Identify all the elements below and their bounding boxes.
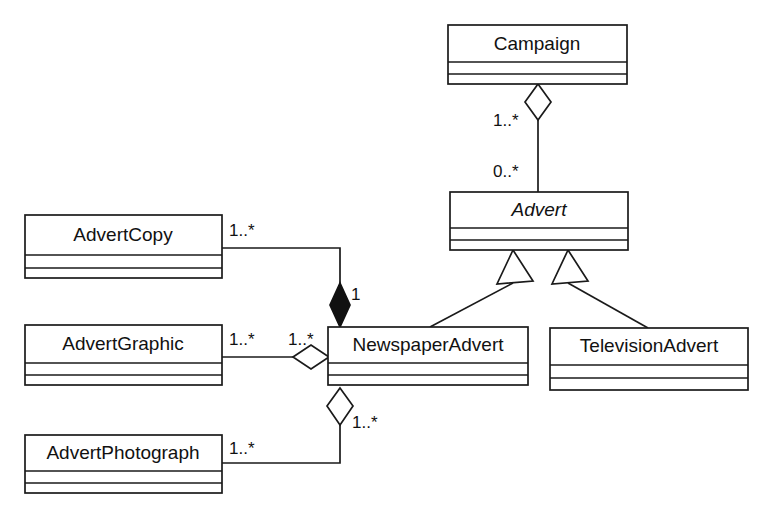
composition-diamond-newspaper-copy <box>330 283 350 327</box>
multiplicity-newspaper-copy-end: 1 <box>351 285 360 304</box>
multiplicity-campaign-end: 1..* <box>493 111 519 130</box>
multiplicity-advert-photograph-end: 1..* <box>229 439 255 458</box>
class-name-advert-copy: AdvertCopy <box>73 224 173 245</box>
uml-class-diagram: Campaign Advert NewspaperAdvert Televisi… <box>0 0 764 518</box>
multiplicity-advert-graphic-end: 1..* <box>229 330 255 349</box>
connector-television-generalization <box>568 283 648 328</box>
class-box-television-advert[interactable]: TelevisionAdvert <box>550 328 748 390</box>
class-box-advert-copy[interactable]: AdvertCopy <box>25 215 222 278</box>
class-name-campaign: Campaign <box>494 33 581 54</box>
class-name-advert: Advert <box>511 199 568 220</box>
diagram-canvas-svg: Campaign Advert NewspaperAdvert Televisi… <box>0 0 764 518</box>
aggregation-diamond-campaign <box>525 84 551 120</box>
class-name-newspaper-advert: NewspaperAdvert <box>352 334 504 355</box>
class-name-television-advert: TelevisionAdvert <box>580 335 719 356</box>
class-box-campaign[interactable]: Campaign <box>448 25 627 84</box>
class-box-advert-photograph[interactable]: AdvertPhotograph <box>25 435 222 493</box>
class-name-advert-photograph: AdvertPhotograph <box>46 442 199 463</box>
multiplicity-newspaper-photograph-end: 1..* <box>352 413 378 432</box>
class-box-advert[interactable]: Advert <box>450 192 628 250</box>
connector-advertcopy-newspaper <box>222 248 340 283</box>
generalization-triangle-newspaper <box>497 250 533 284</box>
connector-newspaper-generalization <box>430 283 513 327</box>
class-name-advert-graphic: AdvertGraphic <box>62 333 183 354</box>
generalization-triangle-television <box>552 250 588 284</box>
multiplicity-advert-copy-end: 1..* <box>229 221 255 240</box>
aggregation-diamond-newspaper-photograph <box>327 388 353 425</box>
class-box-advert-graphic[interactable]: AdvertGraphic <box>25 325 222 385</box>
multiplicity-advert-end: 0..* <box>493 162 519 181</box>
class-box-newspaper-advert[interactable]: NewspaperAdvert <box>328 327 528 385</box>
multiplicity-newspaper-graphic-end: 1..* <box>288 330 314 349</box>
